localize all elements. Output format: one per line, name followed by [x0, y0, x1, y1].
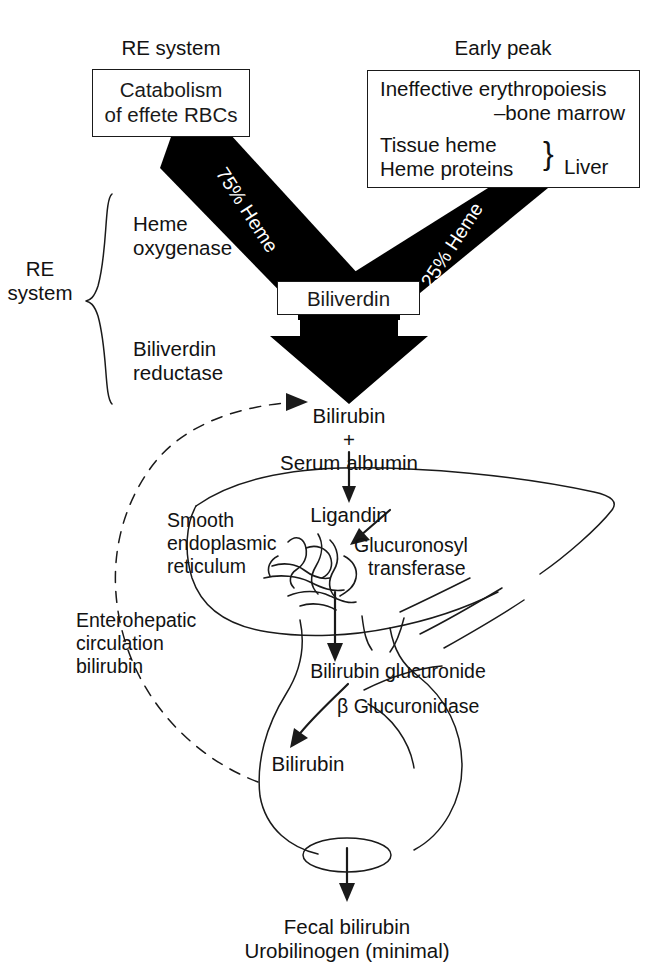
- heading-early-peak: Early peak: [455, 36, 552, 60]
- early-peak-line4: Heme proteins: [380, 157, 513, 181]
- biliverdin-box: Biliverdin: [277, 281, 420, 315]
- liver-duct-line-1: [400, 578, 470, 612]
- node-urobilinogen: Urobilinogen (minimal): [244, 939, 449, 963]
- enterohepatic-line1: Enterohepatic: [76, 609, 196, 632]
- node-bilirubin-plasma: Bilirubin: [313, 404, 386, 428]
- enterohepatic-dashed-path: [115, 402, 300, 782]
- ser-label-line1: Smooth: [167, 509, 234, 532]
- early-peak-line3: Tissue heme: [380, 133, 497, 157]
- bile-duct-left-wall: [259, 620, 318, 854]
- heme-oxygenase-line1: Heme: [133, 212, 188, 236]
- node-fecal-bilirubin: Fecal bilirubin: [284, 915, 410, 939]
- node-bilirubin-gut: Bilirubin: [272, 752, 345, 776]
- liver-brace-glyph: }: [543, 137, 554, 169]
- heading-re-system: RE system: [121, 36, 220, 60]
- node-bilirubin-glucuronide: Bilirubin glucuronide: [310, 660, 486, 683]
- catabolism-box-line2: of effete RBCs: [93, 103, 249, 128]
- enterohepatic-line2: circulation: [76, 632, 164, 655]
- arrow-outlet-to-feces-head: [339, 883, 355, 902]
- liver-duct-line-3: [444, 600, 524, 648]
- early-peak-line2: –bone marrow: [494, 101, 625, 125]
- enterohepatic-line3: bilirubin: [76, 655, 143, 678]
- biliverdin-reductase-line2: reductase: [133, 361, 223, 385]
- re-system-brace: [86, 194, 112, 404]
- liver-duct-line-2: [420, 588, 502, 634]
- biliverdin-box-label: Biliverdin: [278, 287, 419, 312]
- arrow-glucuronide-to-bilirubin-head: [290, 728, 308, 748]
- node-ligandin: Ligandin: [310, 503, 388, 527]
- heme-oxygenase-line2: oxygenase: [133, 236, 232, 260]
- liver-brace-label: Liver: [564, 155, 608, 179]
- re-system-bracket-label-line1: RE: [26, 257, 54, 281]
- node-plus-sign: +: [343, 428, 355, 452]
- smooth-er-squiggles: [264, 534, 356, 610]
- node-serum-albumin: Serum albumin: [280, 451, 418, 475]
- biliverdin-reductase-line1: Biliverdin: [133, 337, 216, 361]
- glucuronosyl-transferase-line2: transferase: [368, 557, 466, 580]
- beta-glucuronidase-label: β Glucuronidase: [337, 695, 479, 718]
- catabolism-box: Catabolism of effete RBCs: [92, 69, 250, 137]
- enterohepatic-arrow-head: [286, 393, 308, 411]
- arrow-albumin-to-ligandin-head: [342, 486, 356, 503]
- glucuronosyl-transferase-line1: Glucuronosyl: [354, 534, 468, 557]
- ser-label-line3: reticulum: [167, 555, 246, 578]
- early-peak-line1: Ineffective erythropoiesis: [380, 77, 606, 101]
- bilirubin-pathway-diagram: Catabolism of effete RBCs Ineffective er…: [0, 0, 666, 972]
- re-system-bracket-label-line2: system: [8, 281, 73, 305]
- ser-label-line2: endoplasmic: [167, 532, 276, 555]
- early-peak-box: Ineffective erythropoiesis –bone marrow …: [367, 70, 640, 188]
- catabolism-box-line1: Catabolism: [93, 78, 249, 103]
